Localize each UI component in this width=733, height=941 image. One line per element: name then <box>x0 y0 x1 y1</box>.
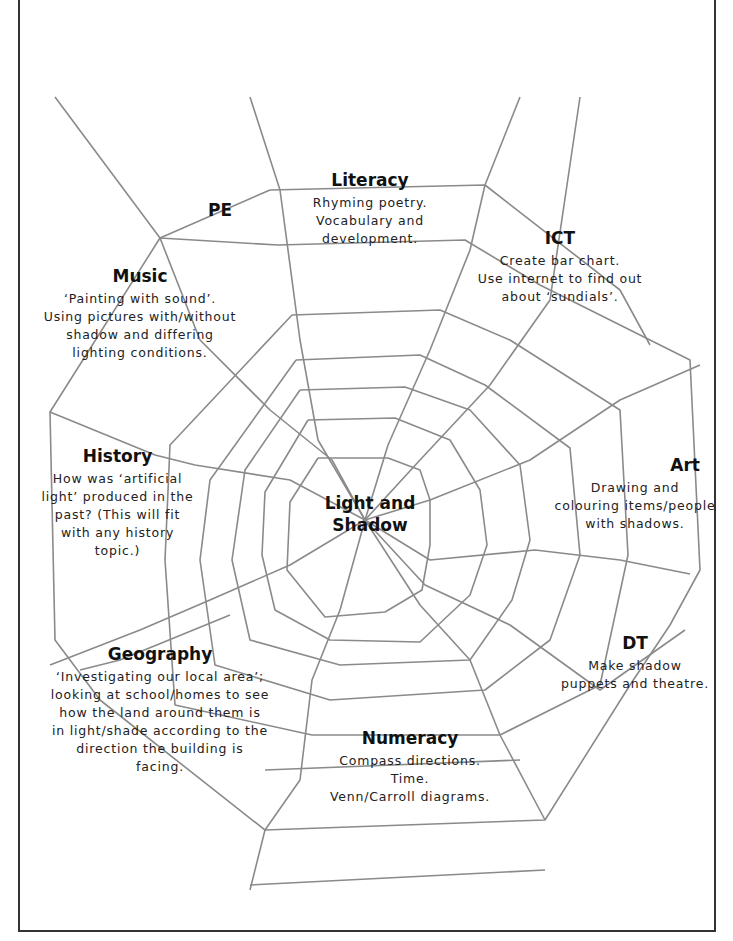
topic-description: ‘Painting with sound’. Using pictures wi… <box>30 290 250 362</box>
topic-music: Music ‘Painting with sound’. Using pictu… <box>30 266 250 362</box>
topic-history: History How was ‘artificial light’ produ… <box>30 446 205 560</box>
topic-title: DT <box>545 633 725 653</box>
desc-line: direction the building is <box>76 741 243 756</box>
desc-line: Rhyming poetry. <box>313 195 427 210</box>
topic-pe: PE <box>195 200 245 220</box>
topic-title: Geography <box>22 644 298 664</box>
topic-title: Literacy <box>290 170 450 190</box>
desc-line: development. <box>322 231 418 246</box>
desc-line: with shadows. <box>585 516 684 531</box>
desc-line: Create bar chart. <box>500 253 620 268</box>
center-line-1: Light and <box>300 492 440 514</box>
topic-description: Create bar chart. Use internet to find o… <box>470 252 650 306</box>
topic-art: Art Drawing and colouring items/people w… <box>540 455 730 533</box>
center-line-2: Shadow <box>300 514 440 536</box>
desc-line: Make shadow <box>588 658 682 673</box>
desc-line: about ‘sundials’. <box>502 289 619 304</box>
desc-line: puppets and theatre. <box>561 676 709 691</box>
desc-line: past? (This will fit <box>55 507 180 522</box>
desc-line: Drawing and <box>591 480 679 495</box>
desc-line: Compass directions. <box>339 753 481 768</box>
desc-line: topic.) <box>95 543 140 558</box>
topic-description: ‘Investigating our local area’; looking … <box>22 668 298 776</box>
desc-line: facing. <box>136 759 184 774</box>
topic-title: ICT <box>470 228 650 248</box>
topic-numeracy: Numeracy Compass directions. Time. Venn/… <box>305 728 515 806</box>
topic-description: Compass directions. Time. Venn/Carroll d… <box>305 752 515 806</box>
desc-line: Time. <box>391 771 430 786</box>
topic-description: Rhyming poetry. Vocabulary and developme… <box>290 194 450 248</box>
topic-title: Numeracy <box>305 728 515 748</box>
topic-ict: ICT Create bar chart. Use internet to fi… <box>470 228 650 306</box>
topic-title: Art <box>540 455 730 475</box>
desc-line: Venn/Carroll diagrams. <box>330 789 490 804</box>
desc-line: lighting conditions. <box>72 345 207 360</box>
desc-line: shadow and differing <box>66 327 214 342</box>
desc-line: ‘Investigating our local area’; <box>56 669 264 684</box>
topic-description: Make shadow puppets and theatre. <box>545 657 725 693</box>
topic-geography: Geography ‘Investigating our local area’… <box>22 644 298 776</box>
topic-title: PE <box>195 200 245 220</box>
desc-line: Using pictures with/without <box>44 309 236 324</box>
topic-dt: DT Make shadow puppets and theatre. <box>545 633 725 693</box>
desc-line: in light/shade according to the <box>52 723 268 738</box>
desc-line: how the land around them is <box>59 705 260 720</box>
topic-title: Music <box>30 266 250 286</box>
desc-line: Vocabulary and <box>316 213 424 228</box>
topic-description: How was ‘artificial light’ produced in t… <box>30 470 205 560</box>
desc-line: colouring items/people <box>555 498 716 513</box>
desc-line: looking at school/homes to see <box>51 687 269 702</box>
desc-line: How was ‘artificial <box>53 471 182 486</box>
desc-line: ‘Painting with sound’. <box>64 291 216 306</box>
topic-literacy: Literacy Rhyming poetry. Vocabulary and … <box>290 170 450 248</box>
topic-title: History <box>30 446 205 466</box>
desc-line: with any history <box>61 525 174 540</box>
center-topic: Light and Shadow <box>300 492 440 536</box>
desc-line: Use internet to find out <box>478 271 643 286</box>
desc-line: light’ produced in the <box>42 489 194 504</box>
topic-description: Drawing and colouring items/people with … <box>540 479 730 533</box>
